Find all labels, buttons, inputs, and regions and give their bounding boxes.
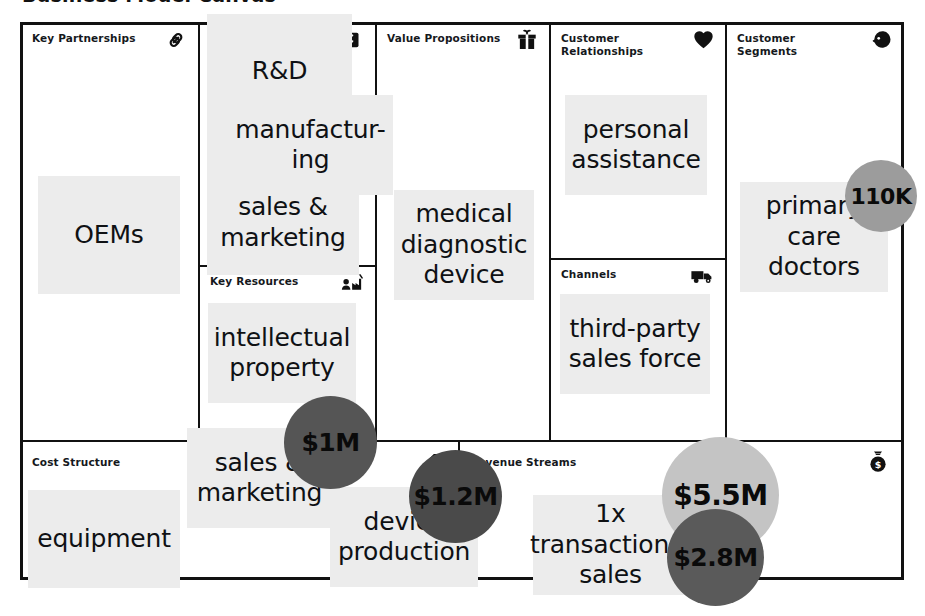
block-title-customer-relationships: Customer Relationships bbox=[561, 32, 643, 58]
money-bag-icon: $ bbox=[866, 450, 890, 474]
bubble-customers-110k[interactable]: 110K bbox=[845, 160, 917, 232]
block-title-customer-segments: Customer Segments bbox=[737, 32, 797, 58]
business-model-canvas: Business Model Canvas Key Partnerships K… bbox=[0, 0, 925, 616]
gift-icon bbox=[515, 28, 539, 52]
bubble-cost-1m[interactable]: $1M bbox=[284, 396, 377, 489]
block-title-key-resources: Key Resources bbox=[210, 275, 298, 288]
note-medical-diagnostic-device[interactable]: medical diagnostic device bbox=[394, 190, 534, 300]
page-title: Business Model Canvas bbox=[22, 0, 276, 6]
heart-icon bbox=[691, 28, 715, 52]
block-title-channels: Channels bbox=[561, 268, 616, 281]
block-title-key-partnerships: Key Partnerships bbox=[32, 32, 136, 45]
note-personal-assistance[interactable]: personal assistance bbox=[565, 95, 707, 195]
delivery-truck-icon bbox=[691, 264, 715, 288]
note-equipment[interactable]: equipment bbox=[28, 490, 180, 588]
block-title-value-propositions: Value Propositions bbox=[387, 32, 500, 45]
bubble-revenue-2-8m[interactable]: $2.8M bbox=[667, 509, 764, 606]
note-oems[interactable]: OEMs bbox=[38, 176, 180, 294]
svg-text:$: $ bbox=[875, 459, 882, 470]
note-intellectual-property[interactable]: intellectual property bbox=[208, 303, 356, 403]
person-head-icon bbox=[870, 28, 894, 52]
bubble-cost-1-2m[interactable]: $1.2M bbox=[409, 450, 502, 543]
note-manufacturing[interactable]: manufactur- ing bbox=[228, 95, 393, 195]
block-title-cost-structure: Cost Structure bbox=[32, 456, 120, 469]
note-third-party-sales-force[interactable]: third-party sales force bbox=[560, 294, 710, 394]
chain-link-icon bbox=[164, 28, 188, 52]
